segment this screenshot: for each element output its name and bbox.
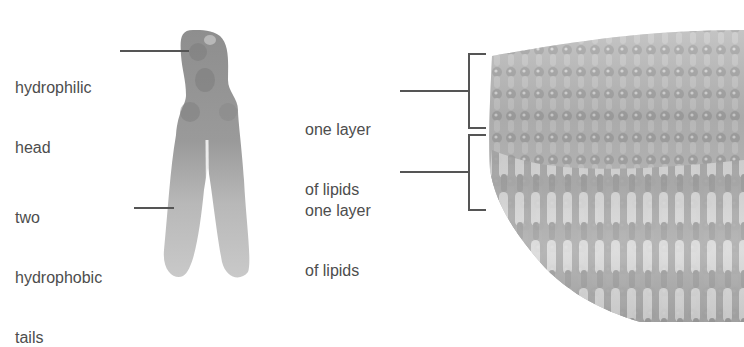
upper-bracket-top-tick [468,53,486,55]
lower-layer-bracket [468,134,470,210]
lipid-bilayer [489,30,744,322]
lower-bracket-bottom-tick [468,209,486,211]
label-line: head [15,138,91,158]
head-leader-line [120,50,189,52]
label-line: hydrophilic [15,78,91,98]
upper-layer-bracket [468,53,470,128]
label-line: tails [15,328,102,347]
lower-layer-leader-line [400,171,468,173]
upper-layer-leader-line [400,90,468,92]
label-line: of lipids [305,261,371,281]
label-line: one layer [305,201,371,221]
phospholipid-molecule [164,30,250,277]
upper-bracket-bottom-tick [468,127,486,129]
label-line: one layer [305,120,371,140]
lower-layer-label: one layer of lipids [305,161,371,301]
hydrophobic-tails-label: two hydrophobic tails [15,168,102,347]
lower-bracket-top-tick [468,134,486,136]
hydrophilic-head-label: hydrophilic head [15,38,91,178]
label-line: two [15,208,102,228]
tails-leader-line [134,207,174,209]
label-line: hydrophobic [15,268,102,288]
